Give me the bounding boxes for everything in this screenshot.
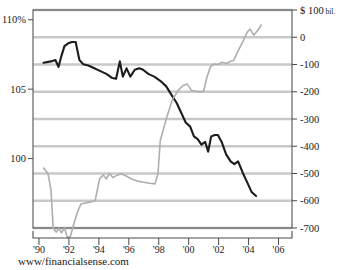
x-axis-label: '96: [123, 244, 135, 255]
left-axis-label: 110%: [2, 14, 26, 25]
x-axis-label: '92: [63, 244, 75, 255]
x-axis-label: '06: [273, 244, 285, 255]
series-group: [43, 25, 261, 238]
x-axis-label: '94: [93, 244, 105, 255]
chart-container: 110%105100 $ 100 bil.0-100-200-300-400-5…: [0, 0, 349, 270]
right-axis-label: $ 100 bil.: [300, 5, 335, 16]
right-axis-label: -500: [300, 168, 319, 179]
right-axis-label: -100: [300, 59, 319, 70]
x-axis-label: '98: [153, 244, 165, 255]
x-axis-label: '00: [183, 244, 195, 255]
left-axis-label: 105: [10, 84, 26, 95]
right-axis-group: $ 100 bil.0-100-200-300-400-500-600-700: [292, 5, 335, 234]
x-axis-group: '90'92'94'96'98'00'02'04'06: [33, 231, 292, 255]
x-axis-label: '90: [33, 244, 45, 255]
series-line-trade-deficit: [43, 25, 261, 238]
source-caption: www/financialsense.com: [18, 255, 129, 267]
x-axis-label: '04: [243, 244, 255, 255]
right-axis-label: 0: [300, 32, 305, 43]
left-axis-group: 110%105100: [2, 14, 33, 164]
right-axis-label: -600: [300, 195, 319, 206]
left-axis-label: 100: [10, 153, 26, 164]
right-axis-label: -700: [300, 223, 319, 234]
right-axis-label: -400: [300, 141, 319, 152]
x-axis-label: '02: [213, 244, 225, 255]
financial-chart: 110%105100 $ 100 bil.0-100-200-300-400-5…: [0, 0, 349, 270]
right-axis-label: -200: [300, 86, 319, 97]
right-axis-label: -300: [300, 114, 319, 125]
